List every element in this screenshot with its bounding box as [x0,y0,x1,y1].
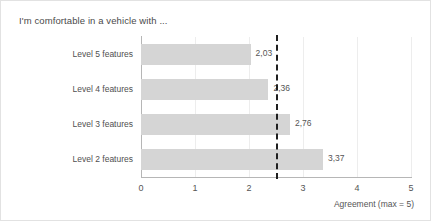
bar-chart-figure: I'm comfortable in a vehicle with ... Le… [0,0,431,221]
x-tick-label: 2 [246,183,251,193]
plot-area: Level 5 features2,03Level 4 features2,36… [141,37,411,177]
category-label: Level 2 features [13,154,133,164]
bar [141,79,268,100]
x-axis-title: Agreement (max = 5) [334,199,414,209]
bar [141,149,323,170]
gridline [411,37,412,177]
category-label: Level 3 features [13,119,133,129]
x-tick-label: 0 [138,183,143,193]
bar [141,44,251,65]
reference-line [276,35,278,179]
bar [141,114,290,135]
chart-title: I'm comfortable in a vehicle with ... [19,15,168,26]
category-label: Level 4 features [13,84,133,94]
category-label: Level 5 features [13,49,133,59]
bar-value-label: 2,76 [295,118,312,128]
x-tick-label: 5 [408,183,413,193]
bar-value-label: 3,37 [328,153,345,163]
x-tick-label: 3 [300,183,305,193]
x-tick-label: 1 [192,183,197,193]
x-tick-label: 4 [354,183,359,193]
bar-value-label: 2,03 [256,48,273,58]
